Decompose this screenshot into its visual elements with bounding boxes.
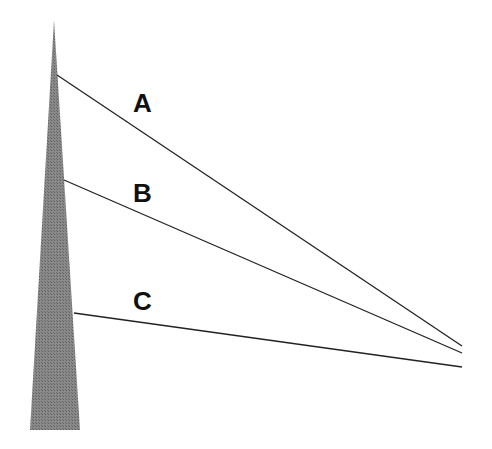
- wire-label-a: A: [133, 88, 152, 118]
- wire-label-b: B: [133, 178, 152, 208]
- wire-label-c: C: [133, 286, 152, 316]
- wire-line-a: [57, 75, 462, 346]
- wire-labels: ABC: [133, 88, 152, 316]
- pole-guy-wires-diagram: ABC: [0, 0, 492, 449]
- wire-line-b: [64, 180, 462, 353]
- wire-lines: [57, 75, 462, 367]
- pole-shape: [30, 20, 80, 430]
- wire-line-c: [74, 313, 462, 367]
